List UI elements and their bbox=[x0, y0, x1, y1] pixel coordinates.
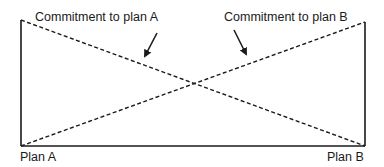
arrow-b-icon bbox=[234, 30, 246, 54]
plan-a-label: Plan A bbox=[20, 150, 56, 164]
arrow-a-icon bbox=[145, 33, 157, 56]
commitment-a-label: Commitment to plan A bbox=[35, 10, 158, 24]
commitment-crossover-diagram: Commitment to plan A Commitment to plan … bbox=[0, 0, 384, 167]
plan-b-label: Plan B bbox=[327, 150, 364, 164]
commitment-b-line bbox=[21, 22, 365, 146]
diagram-canvas bbox=[0, 0, 384, 167]
commitment-b-label: Commitment to plan B bbox=[224, 10, 348, 24]
